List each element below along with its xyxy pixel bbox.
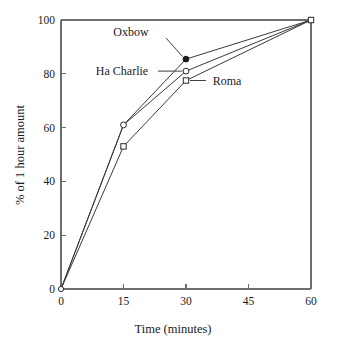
y-tick-label-0: 0 (49, 283, 55, 295)
marker-ha-charlie-15 (121, 122, 127, 128)
series-label-oxbow: Oxbow (113, 25, 149, 39)
y-tick-label-40: 40 (44, 175, 56, 187)
y-tick-label-100: 100 (38, 14, 56, 26)
marker-origin (58, 286, 63, 291)
x-tick-label-15: 15 (118, 295, 130, 307)
y-tick-label-60: 60 (44, 122, 56, 134)
x-tick-label-30: 30 (180, 295, 192, 307)
x-axis-title: Time (minutes) (135, 322, 212, 336)
series-label-ha-charlie: Ha Charlie (96, 64, 148, 78)
marker-roma-30 (183, 78, 188, 83)
marker-ha-charlie-30 (183, 68, 189, 74)
series-label-roma: Roma (213, 74, 242, 88)
x-tick-label-60: 60 (305, 295, 317, 307)
chart-figure: 0 20 40 60 80 100 0 15 30 45 60 Time (mi… (0, 0, 337, 345)
leader-line-oxbow (166, 38, 183, 57)
y-tick-label-20: 20 (44, 229, 56, 241)
marker-endpoint-60 (308, 17, 313, 22)
y-tick-label-80: 80 (44, 68, 56, 80)
x-tick-label-45: 45 (243, 295, 255, 307)
marker-oxbow-30 (183, 56, 189, 62)
marker-roma-15 (121, 144, 126, 149)
y-axis-title: % of 1 hour amount (13, 104, 27, 205)
x-tick-label-0: 0 (58, 295, 64, 307)
line-chart: 0 20 40 60 80 100 0 15 30 45 60 Time (mi… (0, 0, 337, 345)
